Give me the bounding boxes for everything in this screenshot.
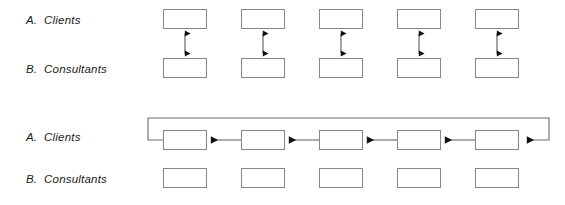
diagram-canvas: A. Clients B. Consultants A. Clients B. …: [0, 0, 565, 205]
row-label-consultants-bottom: B. Consultants: [26, 173, 107, 185]
node-box[interactable]: [397, 58, 441, 78]
node-box[interactable]: [397, 9, 441, 29]
node-box[interactable]: [475, 168, 519, 188]
node-box[interactable]: [319, 168, 363, 188]
node-box[interactable]: [241, 168, 285, 188]
node-box[interactable]: [397, 168, 441, 188]
node-box[interactable]: [241, 58, 285, 78]
node-box[interactable]: [163, 58, 207, 78]
node-box[interactable]: [163, 168, 207, 188]
row-label-consultants-top: B. Consultants: [26, 63, 107, 75]
row-label-clients-bottom: A. Clients: [26, 131, 81, 143]
node-box[interactable]: [241, 9, 285, 29]
node-box[interactable]: [475, 9, 519, 29]
row-label-clients-top: A. Clients: [26, 14, 81, 26]
node-box[interactable]: [319, 130, 363, 150]
node-box[interactable]: [319, 58, 363, 78]
node-box[interactable]: [397, 130, 441, 150]
node-box[interactable]: [163, 9, 207, 29]
node-box[interactable]: [475, 130, 519, 150]
node-box[interactable]: [475, 58, 519, 78]
node-box[interactable]: [319, 9, 363, 29]
node-box[interactable]: [241, 130, 285, 150]
node-box[interactable]: [163, 130, 207, 150]
